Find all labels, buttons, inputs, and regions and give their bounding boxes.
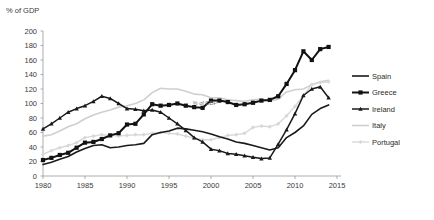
- series-line-italy: [43, 80, 329, 136]
- data-point-marker-diamond: [209, 138, 213, 142]
- data-point-marker-diamond: [175, 132, 179, 136]
- legend-item-italy[interactable]: Italy: [352, 121, 386, 130]
- legend-label-greece: Greece: [372, 88, 397, 97]
- data-point-marker-diamond: [41, 152, 45, 156]
- data-point-marker-diamond: [66, 143, 70, 147]
- y-tick-label: 180: [24, 41, 37, 50]
- data-point-marker-diamond: [358, 140, 362, 144]
- legend-label-italy: Italy: [372, 121, 386, 130]
- data-point-marker-diamond: [58, 146, 62, 150]
- data-point-marker-square: [293, 68, 297, 72]
- data-point-marker-square: [358, 90, 362, 94]
- x-tick-label: 2015: [329, 181, 346, 190]
- y-tick-label: 200: [24, 27, 37, 36]
- y-tick-label: 80: [29, 114, 37, 123]
- data-point-marker-square: [83, 141, 87, 145]
- x-tick-label: 1990: [119, 181, 136, 190]
- data-point-marker-square: [276, 94, 280, 98]
- data-point-marker-diamond: [184, 134, 188, 138]
- inner-chart-annotation: % of GDP: [193, 100, 218, 106]
- data-point-marker-diamond: [100, 133, 104, 137]
- data-point-marker-diamond: [142, 133, 146, 137]
- data-point-marker-square: [251, 101, 255, 105]
- data-point-marker-diamond: [259, 124, 263, 128]
- y-tick-label: 160: [24, 56, 37, 65]
- chart-legend: SpainGreeceIrelandItalyPortugal: [352, 72, 400, 147]
- x-tick-label: 1995: [161, 181, 178, 190]
- chart-container: % of GDP 020406080100120140160180200 198…: [0, 0, 434, 220]
- data-point-marker-square: [259, 99, 263, 103]
- inner-annotation-label: % of GDP: [193, 100, 218, 106]
- legend-label-ireland: Ireland: [372, 105, 395, 114]
- data-point-marker-square: [125, 122, 129, 126]
- series-italy: [43, 80, 329, 136]
- x-axis-tick-labels: 19801985199019952000200520102015: [35, 176, 346, 190]
- data-point-marker-square: [150, 102, 154, 106]
- y-tick-label: 40: [29, 143, 37, 152]
- data-point-marker-square: [268, 98, 272, 102]
- data-point-marker-square: [184, 104, 188, 108]
- data-point-marker-diamond: [49, 149, 53, 153]
- data-point-marker-square: [117, 131, 121, 135]
- data-point-marker-square: [100, 137, 104, 141]
- data-point-marker-square: [167, 103, 171, 107]
- data-point-marker-square: [142, 112, 146, 116]
- data-point-marker-diamond: [268, 125, 272, 129]
- data-point-marker-square: [159, 104, 163, 108]
- y-tick-label: 60: [29, 128, 37, 137]
- data-point-marker-square: [201, 106, 205, 110]
- data-point-marker-square: [327, 45, 331, 49]
- data-point-marker-square: [66, 151, 70, 155]
- y-tick-label: 100: [24, 99, 37, 108]
- data-point-marker-square: [49, 156, 53, 160]
- data-point-marker-square: [318, 47, 322, 51]
- data-point-marker-square: [217, 99, 221, 103]
- y-axis-tick-labels: 020406080100120140160180200: [24, 27, 43, 181]
- x-tick-label: 2005: [245, 181, 262, 190]
- data-point-marker-square: [108, 133, 112, 137]
- legend-item-greece[interactable]: Greece: [352, 88, 397, 97]
- data-point-marker-square: [41, 158, 45, 162]
- y-tick-label: 140: [24, 70, 37, 79]
- legend-label-spain: Spain: [372, 72, 391, 81]
- x-tick-label: 1980: [35, 181, 52, 190]
- legend-label-portugal: Portugal: [372, 138, 400, 147]
- data-point-marker-diamond: [91, 134, 95, 138]
- y-axis-title-label: % of GDP: [6, 6, 39, 15]
- data-point-marker-square: [234, 103, 238, 107]
- data-point-marker-square: [91, 140, 95, 144]
- legend-item-spain[interactable]: Spain: [352, 72, 391, 81]
- data-point-marker-square: [310, 58, 314, 62]
- y-tick-label: 0: [33, 172, 37, 181]
- x-tick-label: 2010: [287, 181, 304, 190]
- data-point-marker-square: [226, 100, 230, 104]
- data-point-marker-diamond: [125, 133, 129, 137]
- data-point-marker-square: [301, 49, 305, 53]
- data-point-marker-square: [175, 101, 179, 105]
- legend-item-portugal[interactable]: Portugal: [352, 138, 400, 147]
- data-point-marker-square: [75, 146, 79, 150]
- data-point-marker-diamond: [133, 133, 137, 137]
- x-tick-label: 1985: [77, 181, 94, 190]
- series-greece: [41, 45, 331, 162]
- data-point-marker-square: [58, 153, 62, 157]
- line-chart: % of GDP 020406080100120140160180200 198…: [0, 0, 434, 220]
- data-point-marker-diamond: [234, 133, 238, 137]
- x-tick-label: 2000: [203, 181, 220, 190]
- data-point-marker-diamond: [226, 133, 230, 137]
- series-lines: [41, 45, 331, 165]
- y-tick-label: 20: [29, 157, 37, 166]
- y-axis-title: % of GDP: [6, 6, 39, 15]
- legend-item-ireland[interactable]: Ireland: [352, 105, 395, 114]
- data-point-marker-square: [133, 122, 137, 126]
- data-point-marker-square: [243, 102, 247, 106]
- data-point-marker-square: [285, 82, 289, 86]
- y-tick-label: 120: [24, 85, 37, 94]
